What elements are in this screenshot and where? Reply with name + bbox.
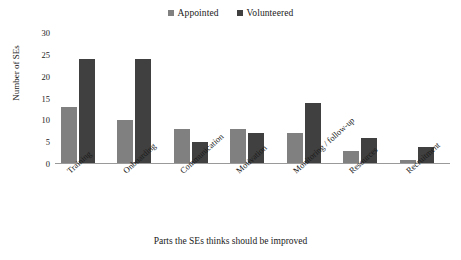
bar-group	[224, 33, 280, 164]
y-axis-tick-label: 0	[46, 159, 50, 169]
x-axis-tick-cell: Recruitment	[394, 166, 450, 228]
x-axis-tick-labels: TrainingOnboardingCommunicationMotivatio…	[55, 166, 450, 228]
legend-entry-appointed: Appointed	[168, 8, 219, 18]
legend-label-appointed: Appointed	[178, 8, 219, 18]
x-axis-tick-cell: Motivation	[224, 166, 280, 228]
chart-legend: Appointed Volunteered	[0, 8, 461, 18]
y-axis-tick-label: 10	[42, 115, 51, 125]
y-axis-title: Number of SEs	[11, 33, 21, 113]
plot-area: 051015202530	[55, 33, 450, 164]
bar-group	[55, 33, 111, 164]
x-axis-tick-cell: Communication	[168, 166, 224, 228]
bar-chart-figure: Appointed Volunteered Number of SEs 0510…	[0, 0, 461, 260]
legend-swatch-volunteered	[237, 10, 243, 16]
y-axis-tick-label: 25	[42, 50, 51, 60]
legend-entry-volunteered: Volunteered	[237, 8, 294, 18]
x-axis-title: Parts the SEs thinks should be improved	[0, 236, 461, 246]
x-axis-tick-cell: Onboarding	[111, 166, 167, 228]
x-axis-tick-cell: Monitoring / follow-up	[281, 166, 337, 228]
x-axis-tick-cell: Resources	[337, 166, 393, 228]
y-axis-tick-label: 20	[42, 72, 51, 82]
legend-swatch-appointed	[168, 10, 174, 16]
bar-group	[111, 33, 167, 164]
y-axis-tick-label: 5	[46, 137, 50, 147]
y-axis-tick-label: 15	[42, 94, 51, 104]
bar-groups	[55, 33, 450, 164]
bar-group	[394, 33, 450, 164]
bar-group	[337, 33, 393, 164]
y-axis-tick-label: 30	[42, 28, 51, 38]
bar-appointed	[61, 107, 77, 164]
x-axis-tick-cell: Training	[55, 166, 111, 228]
legend-label-volunteered: Volunteered	[247, 8, 294, 18]
